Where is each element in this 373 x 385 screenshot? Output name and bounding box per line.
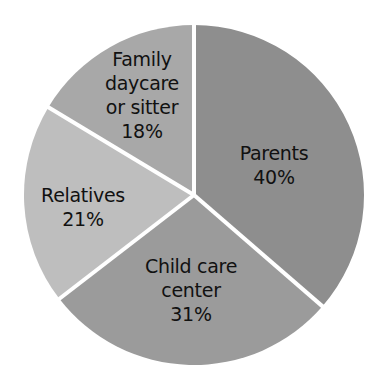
label-line: Family <box>105 47 179 71</box>
label-parents: Parents 40% <box>240 141 309 189</box>
label-line: Child care <box>145 254 237 278</box>
label-line: Relatives <box>41 183 125 207</box>
label-child-care-center: Child care center 31% <box>145 254 237 326</box>
label-percent: 40% <box>240 165 309 189</box>
label-percent: 18% <box>105 119 179 143</box>
label-relatives: Relatives 21% <box>41 183 125 231</box>
label-family-daycare: Family daycare or sitter 18% <box>105 47 179 143</box>
label-line: Parents <box>240 141 309 165</box>
label-percent: 21% <box>41 207 125 231</box>
label-percent: 31% <box>145 302 237 326</box>
label-line: or sitter <box>105 95 179 119</box>
label-line: center <box>145 278 237 302</box>
label-line: daycare <box>105 71 179 95</box>
